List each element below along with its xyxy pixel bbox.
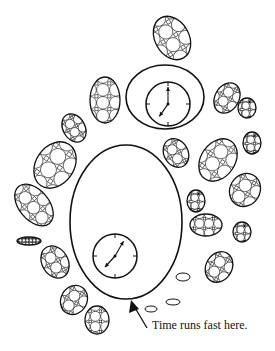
blob <box>12 232 43 250</box>
blob <box>176 200 234 248</box>
caption-time-runs-fast: Time runs fast here. <box>152 318 248 333</box>
pebble <box>145 306 157 312</box>
blob <box>227 87 267 127</box>
blob <box>222 211 262 251</box>
pebble <box>176 273 190 281</box>
small-region <box>126 65 204 129</box>
blob <box>70 291 123 344</box>
time-dilation-diagram <box>0 0 275 351</box>
large-region <box>70 145 182 299</box>
blob <box>0 152 81 255</box>
arrow-icon <box>129 300 147 328</box>
clock-icon <box>93 234 137 278</box>
clock-icon <box>146 82 190 126</box>
pebble <box>166 299 180 305</box>
blob <box>181 224 259 302</box>
